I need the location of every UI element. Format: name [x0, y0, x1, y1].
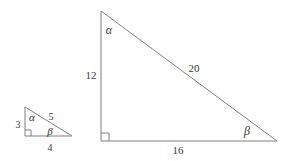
large-triangle-horizontal-leg-label: 16 [173, 144, 185, 156]
small-triangle-hypotenuse-label: 5 [49, 111, 54, 122]
large-triangle-hypotenuse-label: 20 [189, 62, 201, 74]
large-triangle-right-angle-icon [101, 133, 109, 141]
large-triangle-alpha-label: α [106, 23, 113, 37]
large-triangle-vertical-leg-label: 12 [86, 69, 97, 81]
small-triangle-horizontal-leg-label: 4 [48, 142, 53, 153]
geometry-figure: 3 4 5 α β 12 16 20 α β [0, 0, 285, 161]
large-triangle-beta-label: β [243, 124, 250, 138]
small-triangle-alpha-label: α [29, 111, 35, 123]
large-triangle-outline [101, 11, 277, 141]
small-triangle-vertical-leg-label: 3 [16, 119, 21, 130]
small-triangle-beta-label: β [46, 125, 53, 137]
figure-canvas: 3 4 5 α β 12 16 20 α β [0, 0, 285, 161]
small-right-triangle: 3 4 5 α β [16, 107, 73, 153]
small-triangle-right-angle-icon [25, 130, 31, 136]
large-right-triangle: 12 16 20 α β [86, 11, 278, 156]
